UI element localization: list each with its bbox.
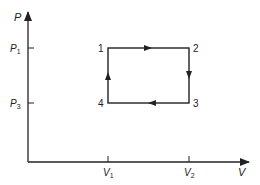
tick-label-p1: P1	[10, 43, 21, 55]
x-axis-label: V	[238, 166, 247, 178]
point-label-3: 3	[193, 98, 199, 109]
point-label-4: 4	[98, 98, 104, 109]
arrow-4-1-icon	[105, 72, 111, 80]
pv-diagram: P V P1 P3 V1 V2 1 2 3 4	[0, 0, 260, 185]
arrow-1-2-icon	[144, 45, 152, 51]
tick-label-v1: V1	[103, 167, 114, 179]
point-label-2: 2	[193, 43, 199, 54]
tick-label-v2: V2	[184, 167, 195, 179]
tick-label-p3: P3	[10, 98, 21, 110]
arrow-3-4-icon	[148, 100, 156, 106]
point-label-1: 1	[98, 43, 104, 54]
cycle-path	[108, 48, 189, 103]
arrow-2-3-icon	[186, 71, 192, 79]
y-axis-label: P	[14, 11, 22, 23]
